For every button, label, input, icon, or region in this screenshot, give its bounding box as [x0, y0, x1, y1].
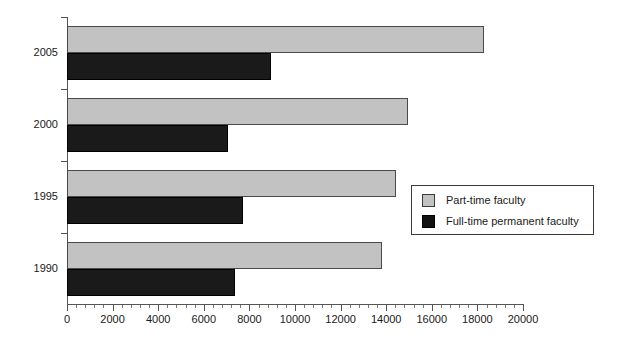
bar-group-1990 [67, 242, 523, 296]
x-axis-label-10000: 10000 [280, 313, 311, 325]
x-axis-minor-tick [277, 305, 278, 308]
legend-label-part-time: Part-time faculty [446, 194, 525, 206]
x-axis-tick [295, 305, 296, 311]
bar-group-2005 [67, 26, 523, 80]
x-axis-tick [158, 305, 159, 311]
x-axis-tick [249, 305, 250, 311]
bar-1990-full-time [67, 269, 235, 296]
x-axis-minor-tick [195, 305, 196, 308]
bar-1995-part-time [67, 170, 396, 197]
legend-swatch-part-time [422, 194, 435, 207]
x-axis-minor-tick [140, 305, 141, 308]
x-axis-minor-tick [322, 305, 323, 308]
x-axis-minor-tick [286, 305, 287, 308]
y-axis-label-1995: 1995 [0, 190, 58, 202]
x-axis-tick [523, 305, 524, 311]
x-axis-label-2000: 2000 [100, 313, 124, 325]
x-axis-tick [341, 305, 342, 311]
x-axis-minor-tick [240, 305, 241, 308]
x-axis-minor-tick [176, 305, 177, 308]
bar-1990-part-time [67, 242, 382, 269]
y-axis-label-2005: 2005 [0, 46, 58, 58]
x-axis-minor-tick [514, 305, 515, 308]
x-axis-minor-tick [404, 305, 405, 308]
x-axis-minor-tick [423, 305, 424, 308]
x-axis-minor-tick [213, 305, 214, 308]
x-axis-label-16000: 16000 [417, 313, 448, 325]
plot-area [67, 17, 523, 305]
x-axis-minor-tick [468, 305, 469, 308]
x-axis-minor-tick [186, 305, 187, 308]
x-axis-label-14000: 14000 [371, 313, 402, 325]
x-axis-minor-tick [487, 305, 488, 308]
x-axis-minor-tick [167, 305, 168, 308]
legend-item-full-time: Full-time permanent faculty [422, 212, 579, 230]
bar-2000-part-time [67, 98, 408, 125]
x-axis-minor-tick [149, 305, 150, 308]
x-axis-minor-tick [505, 305, 506, 308]
x-axis-minor-tick [331, 305, 332, 308]
x-axis-minor-tick [304, 305, 305, 308]
x-axis-tick [477, 305, 478, 311]
x-axis-label-18000: 18000 [462, 313, 493, 325]
x-axis-minor-tick [441, 305, 442, 308]
x-axis-label-12000: 12000 [325, 313, 356, 325]
y-axis-tick [61, 89, 67, 90]
bar-2005-part-time [67, 26, 484, 53]
x-axis-minor-tick [76, 305, 77, 308]
x-axis-tick [204, 305, 205, 311]
x-axis-minor-tick [103, 305, 104, 308]
x-axis-minor-tick [496, 305, 497, 308]
x-axis-tick [386, 305, 387, 311]
x-axis-minor-tick [313, 305, 314, 308]
x-axis-minor-tick [122, 305, 123, 308]
x-axis-tick [113, 305, 114, 311]
x-axis-minor-tick [395, 305, 396, 308]
bar-2005-full-time [67, 53, 271, 80]
y-axis-label-2000: 2000 [0, 118, 58, 130]
x-axis-minor-tick [131, 305, 132, 308]
x-axis-label-0: 0 [64, 313, 70, 325]
chart-legend: Part-time faculty Full-time permanent fa… [411, 185, 594, 235]
bar-2000-full-time [67, 125, 228, 152]
x-axis-minor-tick [359, 305, 360, 308]
x-axis-tick [67, 305, 68, 311]
x-axis-minor-tick [222, 305, 223, 308]
legend-item-part-time: Part-time faculty [422, 191, 525, 209]
legend-label-full-time: Full-time permanent faculty [446, 215, 579, 227]
x-axis-label-20000: 20000 [508, 313, 539, 325]
x-axis-minor-tick [85, 305, 86, 308]
bar-group-2000 [67, 98, 523, 152]
y-axis-tick [61, 17, 67, 18]
x-axis-minor-tick [377, 305, 378, 308]
x-axis-minor-tick [414, 305, 415, 308]
x-axis-label-6000: 6000 [192, 313, 216, 325]
legend-swatch-full-time [422, 215, 435, 228]
x-axis-minor-tick [368, 305, 369, 308]
x-axis-minor-tick [350, 305, 351, 308]
y-axis-tick [61, 233, 67, 234]
bar-chart: 2005200019951990 02000400060008000100001… [0, 0, 634, 338]
x-axis-tick [432, 305, 433, 311]
x-axis-minor-tick [459, 305, 460, 308]
x-axis-label-4000: 4000 [146, 313, 170, 325]
x-axis-minor-tick [94, 305, 95, 308]
x-axis-label-8000: 8000 [237, 313, 261, 325]
y-axis-tick [61, 161, 67, 162]
x-axis-minor-tick [450, 305, 451, 308]
x-axis-minor-tick [259, 305, 260, 308]
x-axis-minor-tick [231, 305, 232, 308]
y-axis-label-1990: 1990 [0, 262, 58, 274]
bar-1995-full-time [67, 197, 243, 224]
x-axis-minor-tick [268, 305, 269, 308]
